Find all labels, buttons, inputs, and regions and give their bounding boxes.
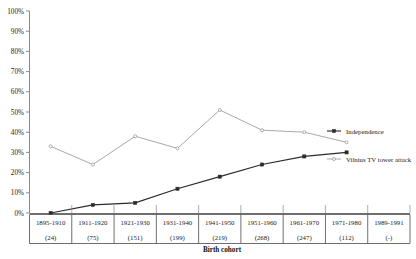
y-axis-tick-label: 100% — [7, 8, 24, 16]
cohort-count-label: (75) — [87, 234, 98, 242]
series-group — [49, 108, 348, 214]
legend-item: Independence — [327, 128, 384, 135]
y-axis-tick-label: 40% — [11, 129, 24, 137]
data-point-marker — [260, 163, 263, 166]
data-point-marker — [218, 108, 221, 111]
cohort-count-label: (24) — [45, 234, 56, 242]
cohort-count-label: (151) — [128, 234, 143, 242]
cohort-count-label: (112) — [339, 234, 353, 242]
data-point-marker — [345, 141, 348, 144]
cohort-table: 1895-1910(24)1911-1920(75)1921-1930(151)… — [30, 205, 411, 244]
cohort-label: 1989-1991 — [374, 219, 403, 226]
y-axis-tick-label: 90% — [11, 28, 24, 36]
y-axis-tick-label: 50% — [11, 109, 24, 117]
y-axis-tick-label: 60% — [11, 88, 24, 96]
data-point-marker — [176, 187, 179, 190]
data-point-marker — [345, 151, 348, 154]
data-point-marker — [218, 175, 221, 178]
line-chart: 0%10%20%30%40%50%60%70%80%90%100% 1895-1… — [0, 0, 416, 259]
y-axis-tick-label: 10% — [11, 189, 24, 197]
cohort-label: 1941-1950 — [205, 219, 235, 226]
cohort-label: 1911-1920 — [78, 219, 108, 226]
data-point-marker — [134, 201, 137, 204]
data-point-marker — [134, 135, 137, 138]
data-point-marker — [49, 145, 52, 148]
cohort-count-label: (247) — [297, 234, 312, 242]
cohort-count-label: (219) — [212, 234, 227, 242]
data-point-marker — [176, 147, 179, 150]
chart-container: 0%10%20%30%40%50%60%70%80%90%100% 1895-1… — [0, 0, 416, 259]
y-axis-ticks: 0%10%20%30%40%50%60%70%80%90%100% — [7, 8, 29, 218]
data-point-marker — [91, 163, 94, 166]
y-axis-tick-label: 30% — [11, 149, 24, 157]
data-point-marker — [91, 203, 94, 206]
data-point-marker — [303, 131, 306, 134]
cohort-count-label: (199) — [170, 234, 185, 242]
x-axis-title: Birth cohort — [203, 246, 242, 254]
cohort-label: 1895-1910 — [36, 219, 66, 226]
y-axis-tick-label: 20% — [11, 169, 24, 177]
legend-item: Vilnius TV tower attack — [327, 156, 412, 163]
cohort-label: 1951-1960 — [247, 219, 277, 226]
legend-label: Independence — [346, 128, 384, 135]
cohort-label: 1961-1970 — [290, 219, 320, 226]
cohort-label: 1921-1930 — [120, 219, 150, 226]
legend-marker — [332, 129, 335, 132]
legend-label: Vilnius TV tower attack — [346, 156, 412, 163]
chart-legend: IndependenceVilnius TV tower attack — [327, 128, 412, 163]
y-axis-tick-label: 70% — [11, 68, 24, 76]
cohort-count-label: (268) — [255, 234, 270, 242]
series-line — [51, 152, 347, 213]
cohort-count-label: (-) — [385, 234, 392, 242]
legend-marker — [333, 158, 336, 161]
cohort-label: 1971-1980 — [332, 219, 362, 226]
data-point-marker — [303, 155, 306, 158]
y-axis-tick-label: 80% — [11, 48, 24, 56]
y-axis-tick-label: 0% — [14, 210, 24, 218]
cohort-label: 1931-1940 — [163, 219, 193, 226]
data-point-marker — [261, 129, 264, 132]
